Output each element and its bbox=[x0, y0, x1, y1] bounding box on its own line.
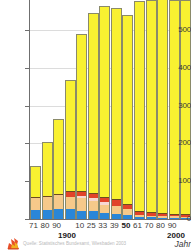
bar-segment-series-brown bbox=[134, 211, 145, 212]
bar-segment-series-tan bbox=[76, 198, 87, 210]
bar-segment-series-red bbox=[88, 194, 99, 198]
bar-segment-series-red bbox=[111, 199, 122, 205]
bar-segment-series-yellow bbox=[99, 6, 110, 197]
bar-segment-series-tan bbox=[42, 197, 53, 209]
y-axis-tick-label: 300 bbox=[167, 102, 191, 110]
bar-segment-series-yellow bbox=[88, 13, 99, 193]
bar-segment-series-tan bbox=[88, 201, 99, 212]
bar-segment-series-red bbox=[99, 198, 110, 202]
bar-segment-series-blue bbox=[30, 210, 41, 219]
bar-segment-series-tan bbox=[146, 216, 157, 218]
bar-segment-series-brown bbox=[65, 191, 76, 192]
bar-segment-series-yellow bbox=[53, 119, 64, 194]
bar-segment-series-pink bbox=[88, 198, 99, 201]
y-axis-tick-label: 200 bbox=[167, 139, 191, 147]
x-axis-tick-label-90: 90 bbox=[49, 221, 65, 230]
bar-segment-series-red bbox=[134, 212, 145, 215]
bar-segment-series-brown bbox=[42, 196, 53, 197]
bar-segment-series-red bbox=[146, 213, 157, 216]
bar-segment-series-brown bbox=[99, 197, 110, 198]
bar-segment-series-yellow bbox=[146, 0, 157, 212]
bar-segment-series-tan bbox=[53, 195, 64, 209]
bar-segment-series-yellow bbox=[42, 142, 53, 196]
bar-segment-series-brown bbox=[30, 197, 41, 198]
bar-segment-series-yellow bbox=[134, 1, 145, 211]
bar-segment-series-tan bbox=[122, 209, 133, 215]
y-axis-tick-label: 400 bbox=[167, 64, 191, 72]
bar-segment-series-tan bbox=[99, 205, 110, 212]
bar-segment-series-yellow bbox=[30, 166, 41, 197]
bar-segment-series-blue bbox=[53, 209, 64, 219]
bar-segment-series-blue bbox=[88, 211, 99, 219]
bar-segment-series-red bbox=[65, 192, 76, 197]
x-axis-title: Jahr bbox=[174, 240, 191, 249]
bar-segment-series-red bbox=[76, 192, 87, 195]
bar-segment-series-tan bbox=[65, 197, 76, 209]
bar-segment-series-tan bbox=[30, 198, 41, 210]
bar-segment-series-brown bbox=[88, 193, 99, 194]
y-axis-line bbox=[29, 0, 30, 219]
bar-segment-series-blue bbox=[76, 211, 87, 219]
bar-segment-series-brown bbox=[146, 212, 157, 213]
stacked-bar-chart: 0100200300400500 71809010253339506170809… bbox=[0, 0, 191, 250]
bar-segment-series-brown bbox=[53, 194, 64, 195]
bar-segment-series-yellow bbox=[122, 15, 133, 204]
bar-segment-series-pink bbox=[76, 196, 87, 199]
bar-segment-series-yellow bbox=[111, 8, 122, 198]
bar-segment-series-tan bbox=[111, 206, 122, 214]
bar-segment-series-brown bbox=[111, 199, 122, 200]
bar-segment-series-brown bbox=[122, 204, 133, 205]
source-credit: Quelle: Statistisches Bundesamt, Wiesbad… bbox=[23, 241, 126, 247]
y-axis-tick-label: 100 bbox=[167, 177, 191, 185]
bar-segment-series-pink bbox=[99, 202, 110, 206]
decade-marker-1900: 1900 bbox=[47, 231, 87, 240]
bar-segment-series-yellow bbox=[65, 80, 76, 191]
y-axis-tick-label: 500 bbox=[167, 26, 191, 34]
bar-segment-series-brown bbox=[76, 191, 87, 192]
bar-segment-series-yellow bbox=[76, 34, 87, 191]
bar-segment-series-red bbox=[122, 205, 133, 209]
bar-segment-series-blue bbox=[65, 209, 76, 219]
bar-segment-series-tan bbox=[134, 215, 145, 217]
bar-segment-series-blue bbox=[42, 210, 53, 219]
bar-segment-series-brown bbox=[157, 213, 168, 214]
statistik-logo-icon bbox=[6, 236, 20, 249]
x-axis-tick-label-90: 90 bbox=[164, 221, 180, 230]
